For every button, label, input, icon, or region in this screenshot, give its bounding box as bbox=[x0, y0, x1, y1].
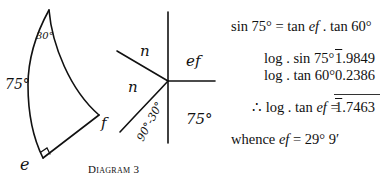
diagram-caption: Diagram 3 bbox=[88, 163, 139, 175]
apex-angle-label: 30° bbox=[36, 30, 54, 41]
eq5-post: = 29° 9′ bbox=[289, 131, 339, 147]
equation-line-1: sin 75° = tan ef . tan 60° bbox=[231, 19, 372, 34]
mantissa: .7463 bbox=[342, 99, 375, 115]
equation-line-5: whence ef = 29° 9′ bbox=[231, 132, 339, 147]
eq1-var-ef: ef bbox=[309, 18, 319, 34]
triangle-side-bottom bbox=[43, 115, 99, 158]
eq4-var-ef: ef bbox=[316, 99, 326, 115]
vertex-e-label: e bbox=[20, 155, 29, 174]
sum-rule-line bbox=[334, 94, 380, 95]
eq1-rhs-pre: tan bbox=[287, 18, 308, 34]
eq1-lhs: sin 75° bbox=[231, 18, 272, 34]
eq1-rhs-post: . tan 60° bbox=[319, 18, 372, 34]
vertex-f-label: f bbox=[100, 114, 109, 132]
triangle-side-right bbox=[49, 10, 99, 115]
side-left-label: 75° bbox=[5, 76, 30, 92]
equation-line-4-value: 1.7463 bbox=[335, 100, 375, 115]
eq5-var-ef: ef bbox=[279, 131, 289, 147]
equation-line-4: ∴ log . tan ef = bbox=[252, 100, 339, 115]
eq4-label-pre: ∴ log . tan bbox=[252, 99, 316, 115]
equation-line-3-label: log . tan 60° bbox=[264, 68, 335, 83]
part-lower-right: 75° bbox=[186, 110, 213, 128]
equation-line-2-value: 1.9849 bbox=[335, 51, 375, 66]
eq1-equals: = bbox=[275, 18, 283, 34]
part-upper-left: n bbox=[140, 42, 150, 60]
equation-line-3-value: 0.2386 bbox=[335, 68, 375, 83]
part-middle-left: n bbox=[128, 78, 138, 96]
part-upper-right: ef bbox=[186, 52, 203, 70]
mantissa: .9849 bbox=[342, 50, 375, 66]
eq5-pre: whence bbox=[231, 131, 279, 147]
equation-line-2-label: log . sin 75° bbox=[264, 51, 334, 66]
part-lower-left: 90°-30° bbox=[134, 100, 166, 144]
